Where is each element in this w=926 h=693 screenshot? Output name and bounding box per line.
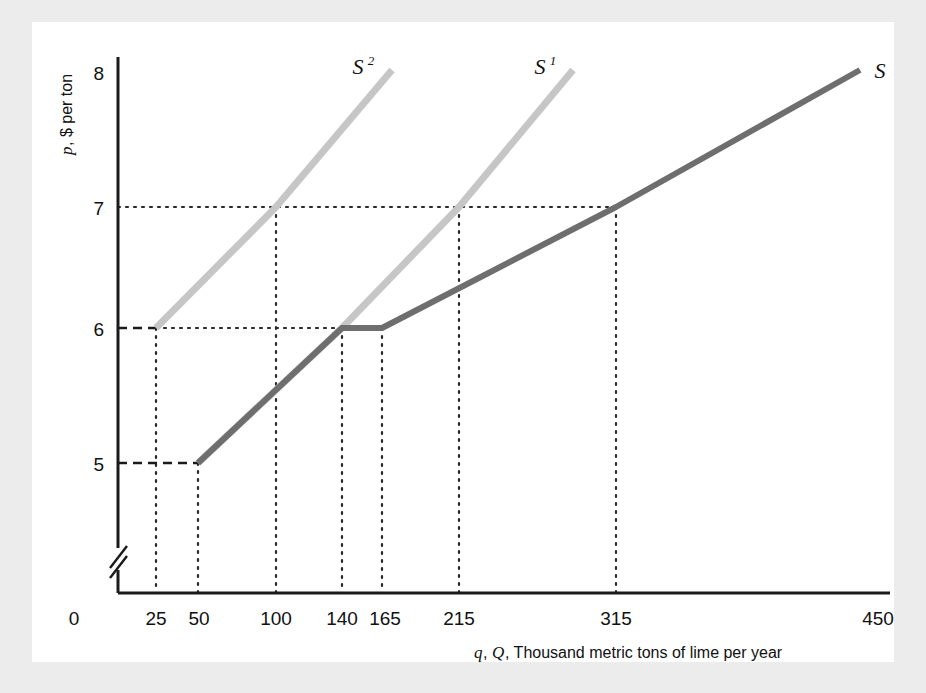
curve-label-s-group: S — [875, 58, 886, 83]
axis-break-mark-upper — [110, 546, 127, 568]
curve-label-s: S — [875, 58, 886, 83]
curve-label-s2-group: S 2 — [353, 53, 375, 79]
y-tick-8: 8 — [93, 63, 104, 84]
x-tick-140: 140 — [326, 608, 358, 629]
y-tick-5: 5 — [93, 454, 104, 475]
x-tick-315: 315 — [600, 608, 632, 629]
axis-lines — [110, 57, 890, 593]
x-axis-title-symbol-Q: Q — [492, 643, 504, 662]
curve-label-s2-superscript: 2 — [368, 53, 375, 68]
x-tick-25: 25 — [145, 608, 166, 629]
x-tick-100: 100 — [260, 608, 292, 629]
curve-label-s1-superscript: 1 — [550, 53, 557, 68]
x-axis-title-group: q , Q , Thousand metric tons of lime per… — [474, 643, 783, 662]
y-tick-labels: 8 7 6 5 — [93, 63, 104, 475]
curve-s — [198, 70, 860, 463]
y-tick-6: 6 — [93, 319, 104, 340]
x-tick-215: 215 — [443, 608, 475, 629]
figure-page: S 2 S 1 S 8 7 6 5 0 25 50 100 140 165 21… — [0, 0, 926, 693]
y-axis-title-group: p , $ per ton — [57, 74, 76, 156]
x-tick-450: 450 — [862, 608, 894, 629]
y-axis-title-rest: , $ per ton — [58, 74, 75, 146]
y-axis-title-symbol: p — [57, 147, 76, 157]
curve-label-s1: S — [535, 54, 546, 79]
x-tick-165: 165 — [369, 608, 401, 629]
y-tick-7: 7 — [93, 198, 104, 219]
vertical-gridlines — [156, 207, 616, 592]
x-axis-title-symbol-q: q — [474, 643, 483, 662]
x-tick-50: 50 — [188, 608, 209, 629]
x-tick-0: 0 — [69, 608, 80, 629]
curve-s2 — [156, 70, 392, 328]
curve-s1 — [198, 70, 573, 463]
x-axis-title-comma: , — [483, 644, 487, 661]
supply-curve-chart: S 2 S 1 S 8 7 6 5 0 25 50 100 140 165 21… — [0, 0, 926, 693]
curve-label-s2: S — [353, 54, 364, 79]
x-tick-labels: 0 25 50 100 140 165 215 315 450 — [69, 608, 894, 629]
curve-label-s1-group: S 1 — [535, 53, 557, 79]
x-axis-title-rest: , Thousand metric tons of lime per year — [505, 644, 783, 661]
